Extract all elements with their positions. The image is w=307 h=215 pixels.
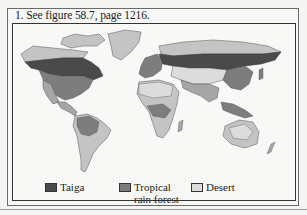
new-zealand	[267, 142, 275, 154]
taiga-swatch	[45, 183, 57, 192]
map-legend: Taiga Tropical rain forest Desert	[13, 181, 294, 201]
japan	[259, 68, 263, 80]
madagascar	[178, 120, 183, 132]
divider	[0, 209, 307, 210]
europe	[139, 54, 163, 78]
sahara-desert	[139, 82, 173, 98]
desert-swatch	[191, 183, 203, 192]
tropical-rain-forest-swatch	[119, 183, 131, 192]
arctic-islands	[61, 34, 105, 48]
question-caption: 1. See figure 58.7, page 1216.	[15, 9, 150, 21]
world-biome-map	[13, 24, 294, 179]
legend-label: Tropical	[134, 182, 171, 193]
legend-label: Taiga	[60, 182, 84, 193]
central-america	[57, 102, 77, 116]
legend-label: Desert	[206, 182, 235, 193]
southeast-asia	[221, 102, 253, 118]
legend-label-line2: rain forest	[134, 194, 179, 205]
figure-frame: Taiga Tropical rain forest Desert	[12, 23, 296, 201]
greenland	[108, 30, 141, 60]
eurasia-tundra	[159, 40, 281, 56]
